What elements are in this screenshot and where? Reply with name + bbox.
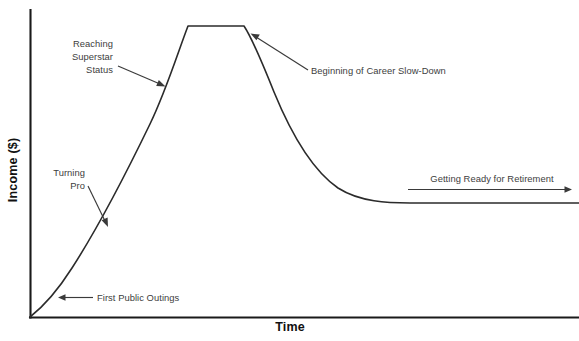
x-axis-title: Time <box>275 320 305 334</box>
annotation-label-turning-pro-line2: Pro <box>70 180 85 191</box>
career-income-line-chart: Income ($) Time Reaching Superstar Statu… <box>0 0 579 341</box>
y-axis-title: Income ($) <box>6 138 20 203</box>
annotation-label-superstar-line2: Superstar <box>72 51 113 62</box>
annotation-arrowhead-superstar <box>156 80 165 87</box>
annotation-turning-pro: Turning Pro <box>53 167 108 227</box>
annotation-label-first-outings: First Public Outings <box>97 292 180 303</box>
annotation-first-public-outings: First Public Outings <box>58 292 180 303</box>
annotation-reaching-superstar-status: Reaching Superstar Status <box>72 38 166 87</box>
annotation-label-retirement: Getting Ready for Retirement <box>430 173 554 184</box>
annotation-beginning-of-career-slow-down: Beginning of Career Slow-Down <box>251 34 446 77</box>
annotation-leader-slowdown <box>256 37 308 70</box>
annotation-arrowhead-retirement <box>565 186 573 193</box>
annotation-label-superstar-line3: Status <box>86 64 113 75</box>
annotation-leader-superstar <box>118 66 160 84</box>
annotation-leader-turning-pro <box>88 186 105 221</box>
annotation-label-slowdown: Beginning of Career Slow-Down <box>311 65 446 76</box>
annotation-arrowhead-first-outings <box>58 294 66 301</box>
annotation-getting-ready-for-retirement: Getting Ready for Retirement <box>408 173 572 193</box>
chart-canvas: Income ($) Time Reaching Superstar Statu… <box>0 0 579 341</box>
annotation-label-turning-pro-line1: Turning <box>53 167 85 178</box>
annotation-arrowhead-turning-pro <box>102 218 108 227</box>
annotation-label-superstar-line1: Reaching <box>73 38 113 49</box>
